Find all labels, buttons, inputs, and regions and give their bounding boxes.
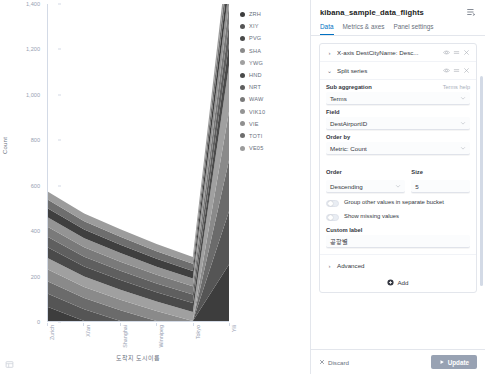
- close-icon[interactable]: [463, 49, 470, 56]
- order-block: Order Descending: [326, 160, 405, 193]
- close-icon[interactable]: [463, 67, 470, 74]
- legend-label: VIE: [249, 121, 259, 127]
- y-axis-title: Count: [2, 137, 8, 154]
- legend-item[interactable]: ZRH: [240, 8, 308, 20]
- order-by-value: Metric: Count: [330, 145, 367, 152]
- x-tick-label: Tokyo: [195, 325, 201, 339]
- custom-label-input[interactable]: 공항별: [326, 235, 470, 248]
- chevron-down-icon: [460, 145, 466, 151]
- order-value: Descending: [330, 183, 363, 190]
- chevron-right-icon[interactable]: ›: [326, 263, 333, 269]
- y-axis-ticks: 02004006008001,0001,2001,400: [14, 4, 44, 322]
- area-chart: Count 02004006008001,0001,2001,400 Zuric…: [0, 4, 238, 356]
- sub-aggregation-value: Terms: [330, 95, 347, 102]
- terms-help-link[interactable]: Terms help: [443, 84, 470, 90]
- order-select[interactable]: Descending: [326, 180, 405, 193]
- legend-label: XIY: [249, 23, 259, 29]
- tab-panel-settings[interactable]: Panel settings: [393, 23, 433, 35]
- advanced-row[interactable]: › Advanced: [320, 254, 476, 274]
- y-tick-label: 1,000: [26, 92, 40, 98]
- chevron-down-icon[interactable]: ⌄: [326, 67, 333, 74]
- add-label: Add: [397, 279, 408, 286]
- table-toggle-icon[interactable]: [5, 360, 14, 369]
- eye-icon[interactable]: [443, 49, 450, 56]
- sub-aggregation-block: Sub aggregation Terms help Terms: [320, 80, 476, 105]
- panel-header: kibana_sample_data_flights: [311, 0, 485, 17]
- tab-data[interactable]: Data: [320, 23, 334, 35]
- legend-label: VIK10: [249, 109, 265, 115]
- group-other-values-toggle[interactable]: [326, 200, 339, 207]
- legend-label: ZRH: [249, 11, 261, 17]
- group-other-values-toggle-row[interactable]: Group other values in separate bucket: [320, 193, 476, 207]
- panel-title: kibana_sample_data_flights: [320, 8, 424, 17]
- panel-scrollbar[interactable]: [480, 76, 483, 286]
- stacked-area-paths: [48, 4, 229, 321]
- chart-legend: ZRHXIYPVGSHAYWGHNDNRTWAWVIK10VIETOTIVE05: [240, 8, 308, 154]
- y-tick-label: 200: [31, 274, 40, 280]
- agg-row-x-axis[interactable]: › X-axis DestCityName: Desc...: [320, 44, 476, 62]
- eye-icon[interactable]: [443, 67, 450, 74]
- x-tick-label: Winnipeg: [158, 325, 164, 347]
- order-by-label: Order by: [326, 134, 350, 140]
- legend-color-dot: [240, 12, 245, 17]
- add-bucket-button[interactable]: Add: [320, 274, 476, 292]
- field-value: DestAirportID: [330, 120, 367, 127]
- show-missing-values-toggle-row[interactable]: Show missing values: [320, 207, 476, 221]
- order-size-row: Order Descending Size 5: [320, 155, 476, 193]
- field-select[interactable]: DestAirportID: [326, 117, 470, 130]
- legend-item[interactable]: HND: [240, 69, 308, 81]
- y-tick-label: 0: [37, 319, 40, 325]
- x-tick-mark: [229, 323, 230, 326]
- legend-item[interactable]: VE05: [240, 142, 308, 154]
- legend-item[interactable]: XIY: [240, 20, 308, 32]
- x-tick-label: Shanghai: [122, 325, 128, 348]
- tab-metrics-axes[interactable]: Metrics & axes: [343, 23, 385, 35]
- size-input[interactable]: 5: [411, 180, 470, 193]
- x-tick-label: Zurich: [49, 325, 55, 340]
- legend-item[interactable]: PVG: [240, 32, 308, 44]
- chevron-right-icon[interactable]: ›: [326, 50, 333, 56]
- legend-item[interactable]: NRT: [240, 81, 308, 93]
- update-button[interactable]: Update: [431, 355, 477, 369]
- x-tick-mark: [47, 323, 48, 326]
- order-by-select[interactable]: Metric: Count: [326, 142, 470, 155]
- legend-item[interactable]: YWG: [240, 57, 308, 69]
- aggregation-card: › X-axis DestCityName: Desc...: [319, 43, 477, 293]
- field-label: Field: [326, 109, 340, 115]
- legend-label: HND: [249, 72, 262, 78]
- size-label: Size: [411, 169, 423, 175]
- discard-button[interactable]: Discard: [319, 359, 349, 366]
- panel-body: › X-axis DestCityName: Desc...: [311, 36, 485, 349]
- legend-color-dot: [240, 48, 245, 53]
- legend-label: TOTI: [249, 133, 262, 139]
- panel-menu-icon[interactable]: [466, 7, 476, 17]
- legend-item[interactable]: VIK10: [240, 106, 308, 118]
- legend-item[interactable]: VIE: [240, 118, 308, 130]
- chevron-down-icon: [460, 120, 466, 126]
- field-block: Field DestAirportID: [320, 105, 476, 130]
- y-tick-label: 800: [31, 137, 40, 143]
- agg-row-x-axis-label: X-axis DestCityName: Desc...: [337, 49, 439, 56]
- field-label-row: Field: [326, 109, 470, 115]
- legend-item[interactable]: WAW: [240, 93, 308, 105]
- legend-label: SHA: [249, 48, 261, 54]
- drag-handle-icon[interactable]: [453, 67, 460, 74]
- sub-aggregation-select[interactable]: Terms: [326, 92, 470, 105]
- y-tick-label: 1,200: [26, 46, 40, 52]
- legend-item[interactable]: TOTI: [240, 130, 308, 142]
- play-icon: [439, 359, 445, 365]
- legend-label: VE05: [249, 145, 263, 151]
- visualization-area: Count 02004006008001,0001,2001,400 Zuric…: [0, 0, 311, 374]
- show-missing-values-toggle[interactable]: [326, 214, 339, 221]
- custom-label-block: Custom label 공항별: [320, 221, 476, 248]
- x-tick-mark: [193, 323, 194, 326]
- drag-handle-icon[interactable]: [453, 49, 460, 56]
- legend-color-dot: [240, 146, 245, 151]
- order-label: Order: [326, 169, 342, 175]
- chart-plot-area: [47, 4, 229, 322]
- legend-color-dot: [240, 121, 245, 126]
- discard-label: Discard: [328, 359, 349, 366]
- x-axis-ticks: ZurichXi'anShanghaiWinnipegTokyoYili: [47, 323, 229, 353]
- agg-row-split-series[interactable]: ⌄ Split series: [320, 62, 476, 80]
- legend-item[interactable]: SHA: [240, 45, 308, 57]
